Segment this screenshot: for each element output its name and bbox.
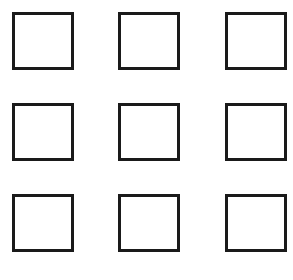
square-r3-c3: [225, 194, 287, 252]
square-r1-c1: [12, 12, 74, 70]
square-r2-c2: [118, 103, 180, 161]
square-r3-c1: [12, 194, 74, 252]
square-grid: [0, 0, 293, 280]
square-r1-c3: [225, 12, 287, 70]
square-r3-c2: [118, 194, 180, 252]
square-r1-c2: [118, 12, 180, 70]
square-r2-c3: [225, 103, 287, 161]
square-r2-c1: [12, 103, 74, 161]
